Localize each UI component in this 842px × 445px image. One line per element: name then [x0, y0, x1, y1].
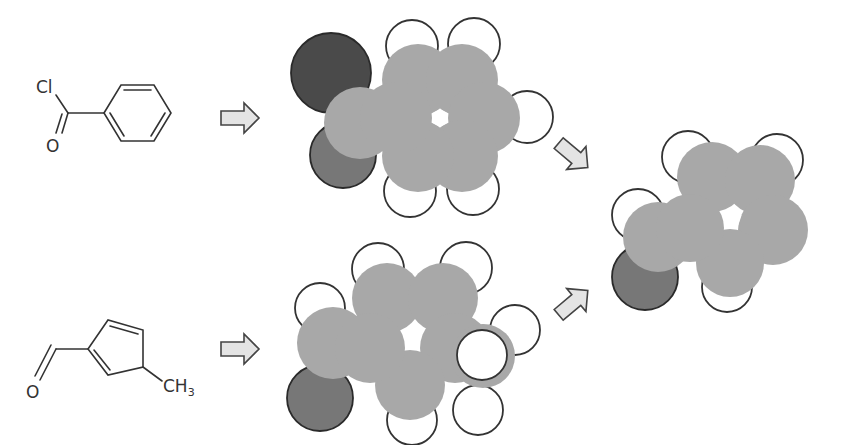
- product-model: [612, 131, 808, 312]
- carbon-atom: [656, 194, 724, 262]
- chlorine-label: Cl: [36, 77, 53, 97]
- aromatic-inner-bond-3: [110, 113, 124, 136]
- aldehyde-co-bond-2: [35, 345, 51, 376]
- arrow-top-right: [221, 103, 259, 133]
- cyclopentadiene-aldehyde-model: [287, 242, 540, 445]
- acylium-benzene-model: [291, 18, 553, 217]
- methyl-bond: [143, 367, 162, 381]
- arrow-bottom-right: [221, 334, 259, 364]
- benzoyl-chloride-structure: Cl O: [36, 77, 171, 156]
- carbon-atom: [335, 313, 405, 383]
- down-right-arrow-icon: [549, 132, 597, 179]
- c-o-double-bond-1: [62, 113, 68, 133]
- arrow-up-right: [549, 279, 597, 326]
- aromatic-inner-bond-2: [151, 113, 165, 136]
- c-o-double-bond-2: [56, 114, 62, 133]
- aldehyde-co-bond-1: [40, 349, 56, 380]
- hydrogen-atom: [453, 385, 503, 435]
- right-arrow-icon: [221, 334, 259, 364]
- benzene-ring: [104, 85, 171, 141]
- reaction-diagram: Cl O O CH3: [0, 0, 842, 445]
- arrow-down-right: [549, 132, 597, 179]
- right-arrow-icon: [221, 103, 259, 133]
- methyl-ch-text: CH: [163, 376, 188, 396]
- methyl-label: CH3: [163, 376, 195, 399]
- cyclopentadiene-aldehyde-structure: O CH3: [26, 320, 195, 402]
- hydrogen-atom: [457, 330, 507, 380]
- c-cl-bond: [56, 95, 68, 113]
- carbon-atom: [360, 82, 432, 154]
- ring-center-hole: [724, 209, 741, 225]
- aldehyde-oxygen-label: O: [26, 382, 39, 402]
- methyl-subscript: 3: [188, 386, 195, 399]
- oxygen-label: O: [46, 136, 59, 156]
- ring-center-hole: [404, 328, 421, 344]
- space-filling-models: [287, 18, 808, 445]
- up-right-arrow-icon: [549, 279, 597, 326]
